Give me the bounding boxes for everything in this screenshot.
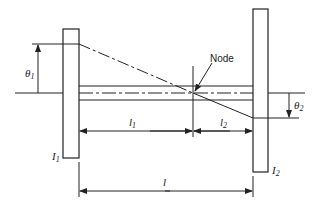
- l2-label: l2: [220, 116, 227, 130]
- l-label: l: [163, 176, 166, 188]
- torsional-system-diagram: Node θ1 θ2 l1 l2 l I1 I2: [0, 0, 320, 210]
- node-label: Node: [210, 53, 234, 64]
- theta1-label: θ1: [25, 67, 34, 81]
- I2-label: I2: [271, 164, 280, 178]
- theta2-label: θ2: [294, 99, 303, 113]
- left-disk: [63, 29, 79, 158]
- I1-label: I1: [51, 150, 60, 164]
- right-disk: [253, 9, 268, 172]
- amplitude-line-solid: [193, 93, 253, 118]
- l1-label: l1: [129, 116, 136, 130]
- node-leader: [195, 63, 212, 91]
